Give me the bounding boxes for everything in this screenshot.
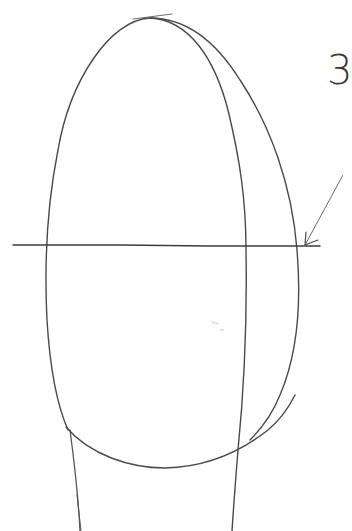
neck-line-left [70,430,80,531]
pencil-smudge [212,322,224,330]
outer-egg-left [46,18,150,430]
pointer-arrow-shaft [305,175,343,245]
outer-egg-right [150,18,299,440]
step-number-label: 3 [327,50,352,90]
horizontal-eye-line [13,245,320,246]
jaw-curve [66,395,295,468]
neck-line-left-double [77,495,81,531]
inner-center-curve [150,18,246,531]
